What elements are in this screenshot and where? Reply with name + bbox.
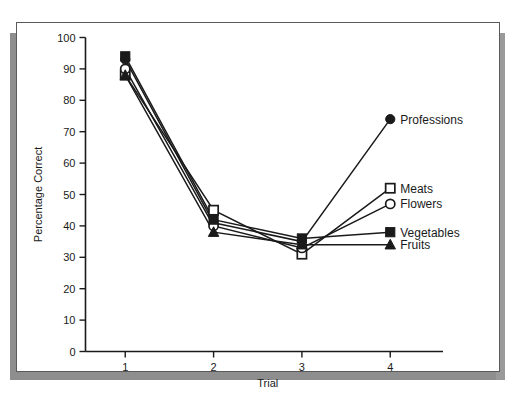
legend-label-meats: Meats [400,182,433,196]
y-tick-label: 70 [63,126,75,138]
y-tick-label: 30 [63,251,75,263]
legend-label-fruits: Fruits [400,238,430,252]
y-tick-label: 20 [63,283,75,295]
figure-container: 0102030405060708090100 1234 ProfessionsM… [0,0,518,408]
y-tick-label: 40 [63,220,75,232]
legend-label-professions: Professions [400,113,463,127]
series-lines-group [125,56,390,254]
y-tick-label: 80 [63,94,75,106]
y-tick-label: 100 [57,32,75,44]
x-tick-label: 3 [299,361,305,373]
legend-group: ProfessionsMeatsFlowersVegetablesFruits [400,113,463,253]
x-tick-label: 1 [122,361,128,373]
legend-label-flowers: Flowers [400,197,442,211]
x-axis-title: Trial [257,377,278,389]
series-marker-group [121,52,395,243]
y-tick-label: 10 [63,314,75,326]
line-chart: 0102030405060708090100 1234 ProfessionsM… [0,0,518,408]
y-tick-label: 50 [63,189,75,201]
series-line [125,75,390,254]
series-marker-group [121,71,395,259]
series-line [125,59,390,241]
series-markers-group [120,52,395,259]
x-tick-label: 4 [387,361,393,373]
x-axis-ticks: 1234 [122,352,393,373]
y-axis-ticks: 0102030405060708090100 [57,32,85,358]
series-marker-group [121,55,395,246]
x-tick-label: 2 [211,361,217,373]
y-tick-label: 60 [63,157,75,169]
series-line [125,69,390,248]
y-tick-label: 90 [63,63,75,75]
series-line [125,75,390,245]
y-tick-label: 0 [69,346,75,358]
y-axis-title: Percentage Correct [32,147,44,242]
series-line [125,56,390,238]
series-marker-group [121,64,395,252]
